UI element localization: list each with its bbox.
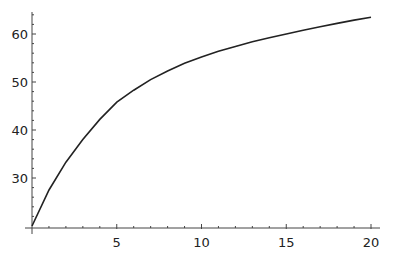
y-tick-label: 60 (11, 27, 28, 42)
data-curve (32, 17, 371, 226)
y-tick-label: 30 (11, 171, 28, 186)
x-tick-label: 5 (113, 235, 121, 250)
axes (25, 12, 380, 234)
y-tick-label: 50 (11, 75, 28, 90)
y-tick-label: 40 (11, 123, 28, 138)
x-tick-label: 15 (278, 235, 295, 250)
x-tick-label: 10 (193, 235, 210, 250)
x-tick-label: 20 (363, 235, 380, 250)
tick-labels: 510152030405060 (11, 27, 379, 250)
line-chart: 510152030405060 (0, 0, 394, 255)
ticks (32, 15, 371, 229)
